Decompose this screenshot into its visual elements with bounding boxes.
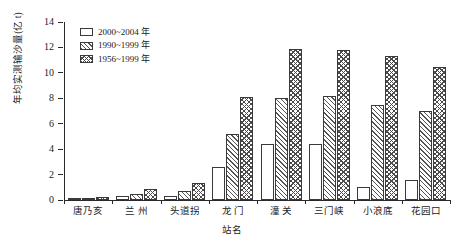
y-axis-tick-label: 4: [49, 141, 54, 157]
y-axis-tick-label: 12: [44, 39, 54, 55]
y-axis-title: 年均实测输沙量(亿 t): [12, 0, 24, 118]
x-axis-tick-mark: [161, 200, 162, 204]
bar-group: [209, 22, 257, 200]
legend-item: 1990~1999 年: [80, 40, 150, 52]
x-axis-tick-mark: [257, 200, 258, 204]
x-axis-tick-mark: [112, 200, 113, 204]
y-axis-tick-mark: [58, 123, 63, 124]
bar: [433, 67, 446, 201]
x-axis-tick-label: 花园口: [402, 205, 450, 218]
chart-legend: 2000~2004 年1990~1999 年1956~1999 年: [80, 26, 150, 67]
x-axis-tick-mark: [402, 200, 403, 204]
bar: [212, 167, 225, 200]
bar: [337, 50, 350, 200]
bar: [130, 194, 143, 200]
bar-group: [161, 22, 209, 200]
bar: [371, 105, 384, 200]
y-axis-tick-mark: [58, 22, 63, 23]
x-axis-tick-mark: [354, 200, 355, 204]
legend-swatch: [80, 42, 93, 50]
bar: [82, 198, 95, 200]
x-axis-tick-label: 龙 门: [209, 205, 257, 218]
bar: [275, 98, 288, 200]
bar: [289, 49, 302, 200]
bar-group: [305, 22, 353, 200]
legend-swatch: [80, 28, 93, 36]
bar-group: [402, 22, 450, 200]
bar: [261, 144, 274, 200]
x-axis-title: 站名: [0, 222, 464, 236]
y-axis-tick-mark: [58, 174, 63, 175]
bar: [405, 180, 418, 200]
y-axis-tick-mark: [58, 98, 63, 99]
bar: [240, 97, 253, 200]
y-axis-tick-label: 0: [49, 192, 54, 208]
y-axis-tick-mark: [58, 149, 63, 150]
bar: [144, 189, 157, 200]
bar-group: [257, 22, 305, 200]
x-axis-tick-mark: [305, 200, 306, 204]
x-axis-tick-label: 唐乃亥: [64, 205, 112, 218]
x-axis-tick-label: 头道拐: [161, 205, 209, 218]
x-axis-tick-mark: [64, 200, 65, 204]
bar-group: [354, 22, 402, 200]
bar: [164, 196, 177, 200]
y-axis-tick-label: 14: [44, 14, 54, 30]
legend-label: 2000~2004 年: [98, 27, 150, 38]
bar: [309, 144, 322, 200]
bar: [192, 183, 205, 200]
y-axis-tick-label: 10: [44, 65, 54, 81]
bar: [419, 111, 432, 200]
y-axis-tick-label: 6: [49, 116, 54, 132]
legend-item: 1956~1999 年: [80, 53, 150, 65]
bar: [385, 56, 398, 200]
y-axis-tick-mark: [58, 72, 63, 73]
bar: [178, 191, 191, 200]
x-axis-tick-label: 三门峡: [305, 205, 353, 218]
y-axis-tick-label: 8: [49, 90, 54, 106]
legend-label: 1990~1999 年: [98, 40, 150, 51]
sediment-discharge-bar-chart: 年均实测输沙量(亿 t) 02468101214 唐乃亥兰 州头道拐龙 门潼 关…: [0, 0, 464, 244]
x-axis-tick-mark: [450, 200, 451, 204]
x-axis-tick-label: 潼 关: [257, 205, 305, 218]
bar: [226, 134, 239, 200]
y-axis-tick-label: 2: [49, 167, 54, 183]
bar: [96, 197, 109, 200]
bar: [357, 187, 370, 200]
legend-item: 2000~2004 年: [80, 26, 150, 38]
legend-label: 1956~1999 年: [98, 54, 150, 65]
x-axis-tick-label: 小浪底: [354, 205, 402, 218]
y-axis-tick-mark: [58, 200, 63, 201]
bar: [323, 96, 336, 200]
x-axis-tick-label: 兰 州: [112, 205, 160, 218]
bar: [68, 198, 81, 200]
y-axis-tick-mark: [58, 47, 63, 48]
bar: [116, 196, 129, 200]
legend-swatch: [80, 55, 93, 63]
x-axis-tick-mark: [209, 200, 210, 204]
